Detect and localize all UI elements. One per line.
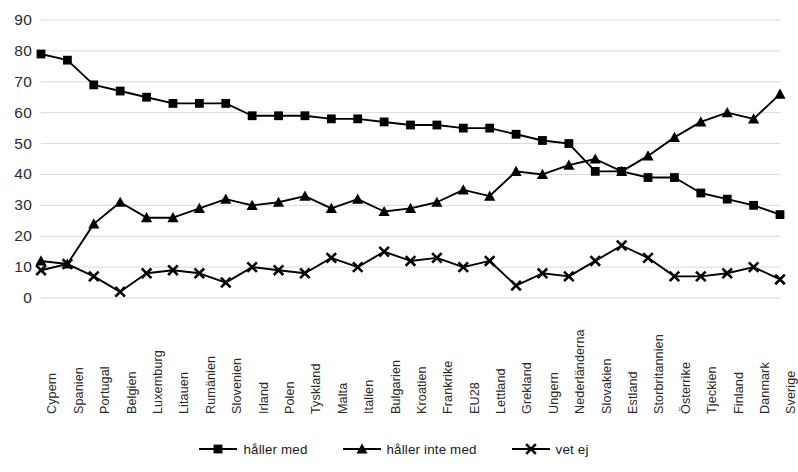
data-point [617,241,627,251]
x-axis-tick-label: Tjeckien [706,366,719,414]
y-axis-tick-label: 60 [0,105,32,121]
square-marker [198,441,238,457]
legend-label: vet ej [556,442,589,457]
x-axis-tick-label: Nederländerna [574,329,587,414]
data-point [327,114,336,123]
x-marker [511,441,551,457]
x-axis-tick-label: Cypern [46,373,59,414]
data-point [431,197,442,207]
data-point [643,253,653,263]
y-axis-tick-label: 50 [0,136,32,152]
legend-label: håller med [243,442,307,457]
series-x [36,241,785,297]
data-point [459,124,468,133]
legend-item[interactable]: vet ej [511,441,589,457]
series-square [37,50,785,219]
x-axis-tick-label: Slovakien [601,358,614,414]
series-line [41,94,780,264]
data-point [352,194,363,204]
x-axis-tick-label: Malta [337,383,350,414]
data-point [590,153,601,163]
x-axis-tick-label: Italien [363,380,376,414]
data-point [301,111,310,120]
chart-legend: håller medhåller inte medvet ej [0,441,787,457]
data-point [142,93,151,102]
x-axis-tick-label: Ungern [548,372,561,414]
series-layer [35,50,785,297]
data-point [116,87,125,96]
x-axis-tick-label: Tyskland [310,364,323,415]
x-axis-tick-label: Slovenien [231,358,244,414]
gridlines [41,20,780,298]
data-point [669,132,680,142]
series-line [41,245,780,291]
x-axis-tick-label: Finland [733,372,746,414]
data-point [169,99,178,108]
x-axis-tick-label: Frankrike [442,361,455,414]
data-point [776,210,785,219]
y-axis-tick-label: 80 [0,43,32,59]
data-point [221,99,230,108]
x-axis-tick-label: Estland [627,371,640,414]
data-point [327,253,337,263]
y-axis-tick-label: 30 [0,197,32,213]
data-point [432,121,441,130]
y-axis-tick-label: 20 [0,228,32,244]
data-point [723,195,732,204]
data-point [774,89,785,99]
data-point [406,121,415,130]
data-point [749,201,758,210]
data-point [274,111,283,120]
data-point [458,184,469,194]
data-point [63,56,72,65]
data-point [37,50,46,59]
data-point [115,197,126,207]
data-point [591,167,600,176]
x-axis-tick-label: Belgien [126,371,139,414]
data-point [511,281,521,291]
series-line [41,54,780,215]
data-point [775,275,785,285]
data-point [89,80,98,89]
x-axis-tick-label: Österrike [680,362,693,414]
triangle-marker [342,441,382,457]
x-axis-tick-label: Storbritannien [653,334,666,414]
legend-item[interactable]: håller med [198,441,307,457]
legend-item[interactable]: håller inte med [342,441,477,457]
data-point [590,256,600,266]
y-axis-tick-label: 90 [0,12,32,28]
y-axis-tick-label: 10 [0,259,32,275]
x-axis-tick-label: Kroatien [416,366,429,414]
data-point [299,190,310,200]
data-point [248,111,257,120]
data-point [379,247,389,257]
x-axis-tick-label: Luxemburg [152,350,165,414]
data-point [380,118,389,127]
data-point [115,287,125,297]
x-axis-tick-label: Spanien [73,367,86,414]
data-point [512,130,521,139]
x-axis-tick-label: EU28 [469,382,482,414]
data-point [353,114,362,123]
x-axis-tick-label: Portugal [99,366,112,414]
x-axis-tick-label: Lettland [495,368,508,414]
data-point [221,278,231,288]
data-point [696,189,705,198]
data-point [564,139,573,148]
data-point [644,173,653,182]
x-axis-tick-label: Grekland [521,362,534,414]
x-axis-tick-label: Polen [284,381,297,414]
x-axis-tick-label: Bulgarien [390,360,403,414]
x-axis-tick-label: Litauen [178,372,191,414]
data-point [89,272,99,282]
data-point [195,99,204,108]
data-point [642,150,653,160]
y-axis-tick-label: 70 [0,74,32,90]
data-point [35,255,46,265]
x-axis-tick-label: Rumänien [205,356,218,414]
data-point [510,166,521,176]
y-axis-tick-label: 40 [0,166,32,182]
data-point [485,124,494,133]
data-point [670,173,679,182]
